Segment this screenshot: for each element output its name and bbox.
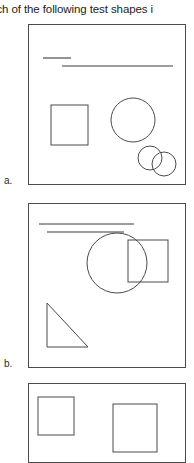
small-square bbox=[38, 397, 74, 435]
circle bbox=[87, 233, 147, 293]
small-circle-right bbox=[152, 152, 176, 176]
small-circle-left bbox=[138, 146, 162, 170]
right-triangle bbox=[47, 303, 88, 347]
choice-a-shapes bbox=[43, 58, 176, 176]
large-circle bbox=[111, 98, 155, 142]
choice-b-shapes bbox=[39, 224, 168, 347]
square bbox=[51, 105, 88, 145]
square bbox=[128, 240, 168, 282]
